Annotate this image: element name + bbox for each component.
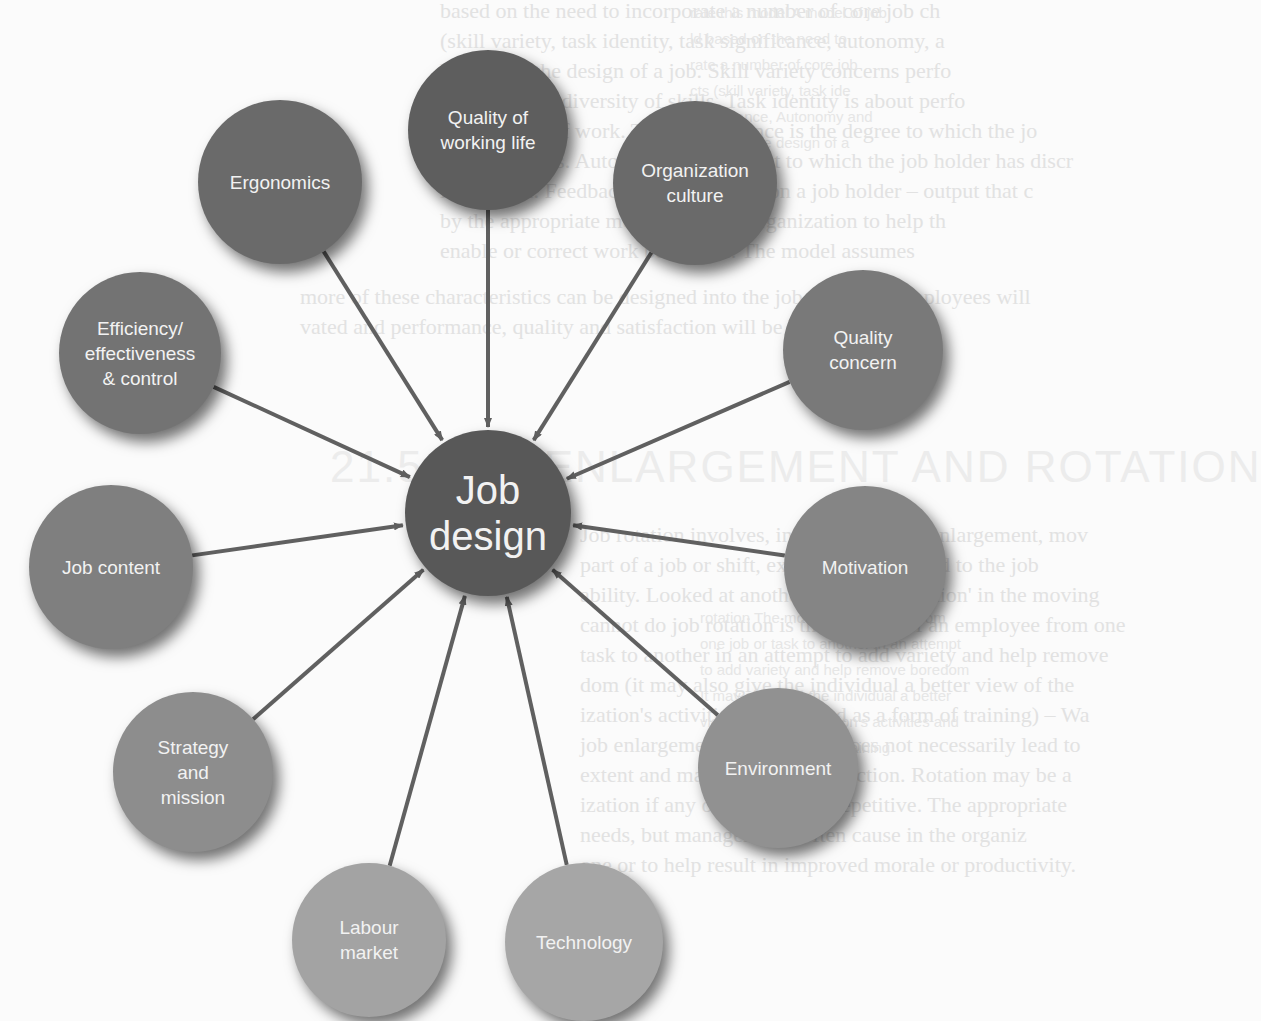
arrow-job-content-to-job-design — [192, 525, 403, 555]
node-efficiency-effectiveness-control: Efficiency/ effectiveness & control — [59, 272, 221, 434]
node-quality-concern: Quality concern — [783, 270, 943, 430]
node-environment: Environment — [698, 688, 858, 848]
arrow-labour-market-to-job-design — [390, 596, 465, 866]
node-labour-market-label: Labour market — [339, 915, 398, 965]
node-labour-market: Labour market — [292, 863, 446, 1017]
node-motivation-label: Motivation — [822, 555, 909, 580]
arrow-ergonomics-to-job-design — [324, 251, 443, 440]
arrow-environment-to-job-design — [553, 570, 718, 715]
arrow-quality-concern-to-job-design — [567, 382, 790, 479]
node-job-design-center-label: Job design — [429, 467, 547, 559]
node-efficiency-effectiveness-control-label: Efficiency/ effectiveness & control — [85, 316, 196, 391]
node-environment-label: Environment — [725, 756, 832, 781]
node-technology-label: Technology — [536, 930, 632, 955]
node-motivation: Motivation — [784, 486, 946, 648]
node-strategy-and-mission-label: Strategy and mission — [158, 735, 229, 810]
node-organization-culture-label: Organization culture — [641, 158, 749, 208]
node-job-content: Job content — [29, 485, 193, 649]
node-job-content-label: Job content — [62, 555, 160, 580]
node-quality-of-working-life: Quality of working life — [408, 50, 568, 210]
node-ergonomics-label: Ergonomics — [230, 170, 330, 195]
node-quality-of-working-life-label: Quality of working life — [440, 105, 535, 155]
arrow-motivation-to-job-design — [573, 525, 785, 555]
node-strategy-and-mission: Strategy and mission — [113, 692, 273, 852]
node-technology: Technology — [505, 863, 663, 1021]
node-quality-concern-label: Quality concern — [829, 325, 897, 375]
arrow-technology-to-job-design — [507, 597, 567, 865]
node-ergonomics: Ergonomics — [198, 100, 362, 264]
arrow-efficiency-effectiveness-control-to-job-design — [214, 387, 410, 477]
node-job-design-center: Job design — [405, 430, 571, 596]
arrow-strategy-and-mission-to-job-design — [253, 570, 423, 719]
node-organization-culture: Organization culture — [613, 101, 777, 265]
arrow-organization-culture-to-job-design — [534, 252, 652, 440]
